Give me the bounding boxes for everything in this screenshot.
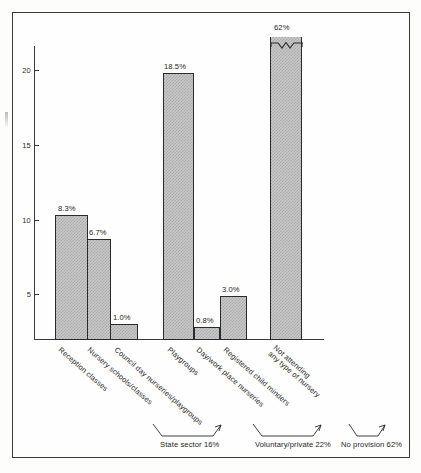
y-tick-label-10: 10 — [22, 216, 31, 225]
bar-registered-child-minders — [220, 296, 247, 340]
bar-value-day-work-place-nurseries: 0.8% — [196, 316, 214, 325]
y-tick-10 — [34, 220, 39, 221]
bar-council-day-nurseries — [110, 324, 138, 340]
bracket-state-sector — [152, 423, 222, 437]
bracket-voluntary-private — [252, 423, 322, 437]
bar-nursery-schools — [87, 239, 111, 340]
bar-value-not-attending: 62% — [274, 23, 290, 32]
bar-value-reception-classes: 8.3% — [58, 204, 76, 213]
y-axis-line — [34, 46, 35, 340]
y-tick-20 — [34, 70, 39, 71]
bracket-label-voluntary-private: Voluntary/private 22% — [255, 440, 331, 449]
bracket-label-state-sector: State sector 16% — [160, 440, 219, 449]
y-tick-15 — [34, 145, 39, 146]
bar-value-registered-child-minders: 3.0% — [222, 285, 240, 294]
bar-playgroups — [163, 73, 194, 340]
bracket-label-no-provision: No provision 62% — [341, 440, 402, 449]
scan-artifact — [5, 112, 8, 126]
bar-not-attending — [270, 37, 302, 340]
y-tick-5 — [34, 294, 39, 295]
chart-page: 20 15 10 5 8.3% 6.7% 1.0% 18.5% 0.8% 3.0… — [0, 0, 421, 473]
bar-value-playgroups: 18.5% — [164, 62, 186, 71]
bar-value-council-day-nurseries: 1.0% — [113, 313, 131, 322]
y-tick-label-20: 20 — [22, 66, 31, 75]
bar-reception-classes — [55, 215, 88, 340]
y-tick-label-5: 5 — [27, 290, 31, 299]
axis-break-notch — [271, 36, 301, 43]
bar-value-nursery-schools: 6.7% — [89, 228, 107, 237]
bracket-no-provision — [348, 423, 386, 437]
bar-day-work-place-nurseries — [194, 327, 220, 340]
y-tick-label-15: 15 — [22, 141, 31, 150]
